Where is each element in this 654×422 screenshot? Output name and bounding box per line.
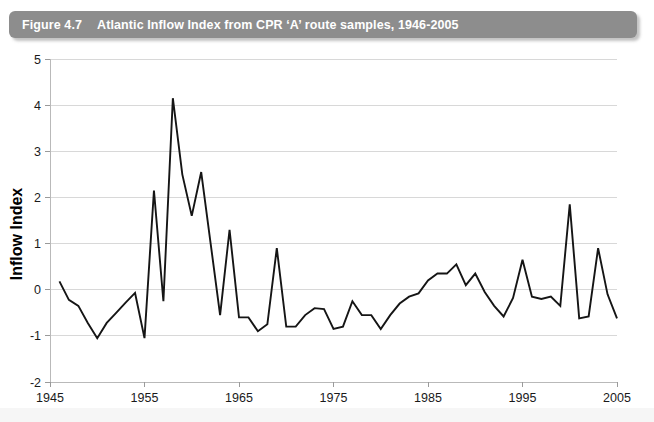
page-edge-band [0, 408, 654, 422]
x-tick-label: 1945 [36, 391, 64, 404]
y-tick-label: 3 [34, 145, 41, 159]
data-series [59, 98, 617, 338]
y-tick-label: -2 [30, 376, 41, 390]
figure-number-label: Figure 4.7 [9, 18, 82, 32]
chart-plot-area: -2-1012345 1945195519651975198519952005 … [0, 44, 654, 404]
y-axis-title: Inflow Index [8, 188, 25, 281]
x-tick-label: 2005 [603, 391, 631, 404]
x-tick-label: 1965 [225, 391, 253, 404]
figure-container: Figure 4.7 Atlantic Inflow Index from CP… [0, 0, 654, 422]
x-tick-label: 1975 [320, 391, 348, 404]
x-tick-label: 1955 [131, 391, 159, 404]
x-tick-label: 1995 [509, 391, 537, 404]
y-tick-label: 5 [34, 53, 41, 67]
y-tick-label: 0 [34, 283, 41, 297]
gridlines [50, 59, 617, 382]
figure-caption-label: Atlantic Inflow Index from CPR ‘A’ route… [82, 18, 459, 32]
y-axis: -2-1012345 [30, 53, 50, 390]
y-tick-label: -1 [30, 329, 41, 343]
x-tick-label: 1985 [414, 391, 442, 404]
series-line-inflow-index [59, 98, 617, 338]
x-axis: 1945195519651975198519952005 [36, 382, 631, 404]
line-chart: -2-1012345 1945195519651975198519952005 … [0, 44, 654, 404]
y-tick-label: 4 [34, 99, 41, 113]
y-tick-label: 1 [34, 237, 41, 251]
figure-caption-bar: Figure 4.7 Atlantic Inflow Index from CP… [9, 11, 637, 38]
y-tick-label: 2 [34, 191, 41, 205]
